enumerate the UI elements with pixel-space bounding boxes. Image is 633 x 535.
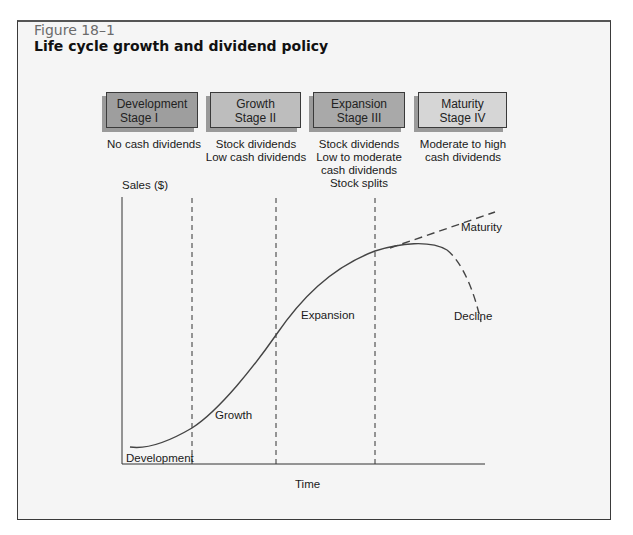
x-axis-label: Time bbox=[295, 478, 320, 490]
label-expansion: Expansion bbox=[301, 309, 355, 321]
label-development: Development bbox=[126, 452, 194, 464]
sales-curve bbox=[130, 244, 447, 448]
life-cycle-chart bbox=[0, 0, 633, 535]
y-axis-label: Sales ($) bbox=[122, 179, 168, 191]
label-maturity: Maturity bbox=[461, 221, 502, 233]
label-decline: Decline bbox=[454, 310, 492, 322]
label-growth: Growth bbox=[215, 409, 252, 421]
